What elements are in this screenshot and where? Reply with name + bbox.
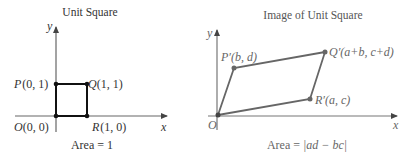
point-r-prime-dot xyxy=(308,97,313,102)
unit-square xyxy=(56,84,87,116)
right-origin-label: O xyxy=(208,118,217,132)
point-q-label: Q(1, 1) xyxy=(88,77,123,91)
point-r-label: R(1, 0) xyxy=(91,120,126,134)
point-q-prime-label: Q′(a+b, c+d) xyxy=(329,45,394,59)
right-area-label: Area = |ad − bc| xyxy=(267,138,347,152)
point-o-label: O(0, 0) xyxy=(14,120,49,134)
left-x-axis-label: x xyxy=(160,120,167,134)
unit-square-transformation-diagram: Unit Square y x P(0, 1) Q(1, 1) O(0, 0) … xyxy=(0,0,419,162)
point-p-prime-label: P′(b, d) xyxy=(220,50,257,64)
right-y-axis-label: y xyxy=(206,26,213,40)
point-r-dot xyxy=(85,114,90,119)
right-title: Image of Unit Square xyxy=(263,9,362,22)
point-p-label: P(0, 1) xyxy=(13,77,48,91)
point-r-prime-label: R′(a, c) xyxy=(314,93,350,107)
left-area-label: Area = 1 xyxy=(71,138,113,152)
point-q-prime-dot xyxy=(323,50,328,55)
left-panel: Unit Square y x P(0, 1) Q(1, 1) O(0, 0) … xyxy=(13,6,167,152)
right-x-axis-label: x xyxy=(392,118,399,132)
point-p-dot xyxy=(54,82,59,87)
point-p-prime-dot xyxy=(232,66,237,71)
right-panel: Image of Unit Square y x O P′(b, d) Q′(a… xyxy=(206,9,399,152)
left-title: Unit Square xyxy=(62,6,117,19)
point-o-prime-dot xyxy=(216,113,221,118)
point-o-dot xyxy=(54,114,59,119)
left-y-axis-label: y xyxy=(46,19,53,33)
